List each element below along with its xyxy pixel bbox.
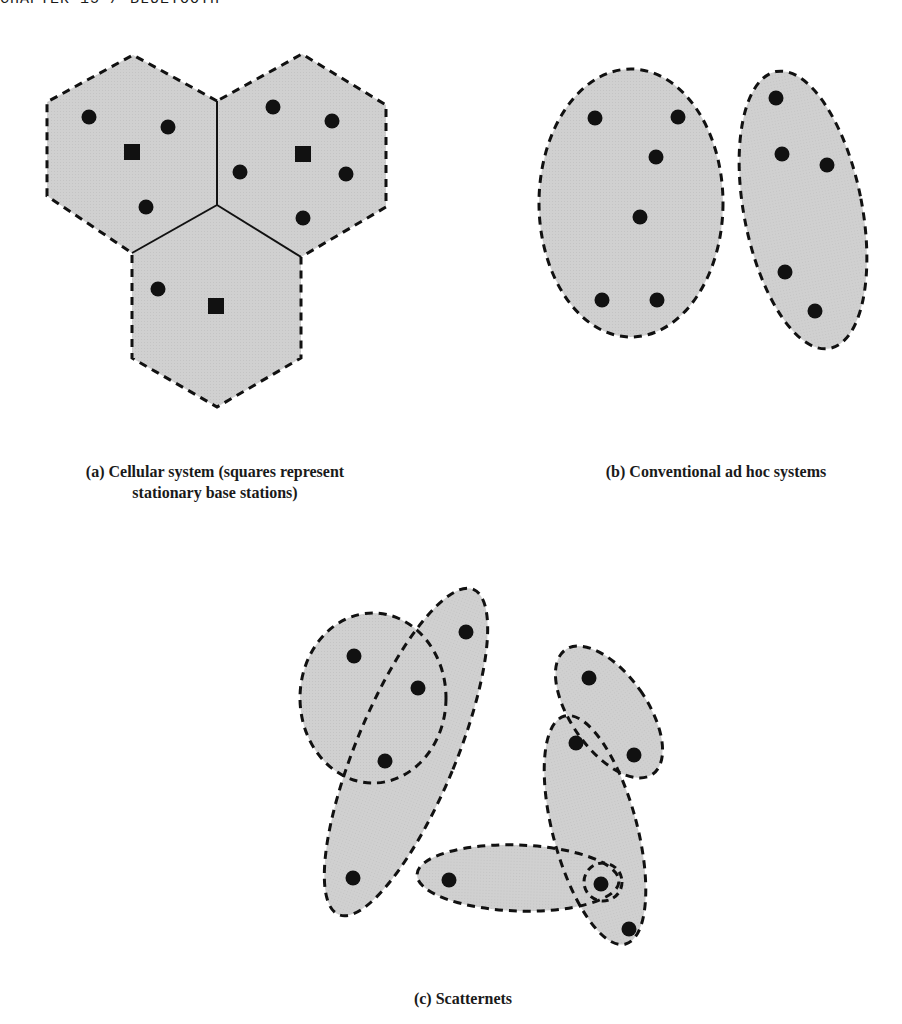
mobile-device-dot [649,150,664,165]
caption-b: (b) Conventional ad hoc systems [560,461,872,482]
mobile-device-dot [622,922,637,937]
mobile-device-dot [820,158,835,173]
mobile-device-dot [442,873,457,888]
bridge-device-dot [378,754,393,769]
network-topology-figure [0,0,902,1024]
mobile-device-dot [650,293,665,308]
bridge-device-dot [569,736,584,751]
base-station-square [124,144,140,160]
mobile-device-dot [778,265,793,280]
base-station-square [208,298,224,314]
mobile-device-dot [347,649,362,664]
mobile-device-dot [161,120,176,135]
mobile-device-dot [296,211,311,226]
panel-b-adhoc-systems [539,60,888,359]
caption-a-line1: (a) Cellular system (squares represent [38,461,392,482]
mobile-device-dot [459,625,474,640]
mobile-device-dot [339,167,354,182]
mobile-device-dot [671,110,686,125]
panel-c-scatternets [292,570,683,955]
mobile-device-dot [266,100,281,115]
base-station-square [295,146,311,162]
mobile-device-dot [325,114,340,129]
mobile-device-dot [582,671,597,686]
caption-a: (a) Cellular system (squares represent s… [38,461,392,503]
mobile-device-dot [627,748,642,763]
panel-a-cellular-system [47,54,386,407]
mobile-device-dot [775,147,790,162]
caption-b-text: (b) Conventional ad hoc systems [560,461,872,482]
mobile-device-dot [233,165,248,180]
caption-c-text: (c) Scatternets [380,988,546,1009]
mobile-device-dot [346,871,361,886]
mobile-device-dot [411,681,426,696]
mobile-device-dot [139,200,154,215]
mobile-device-dot [588,111,603,126]
bridge-device-dot [594,877,609,892]
mobile-device-dot [808,304,823,319]
mobile-device-dot [151,282,166,297]
mobile-device-dot [595,293,610,308]
caption-c: (c) Scatternets [380,988,546,1009]
caption-a-line2: stationary base stations) [38,482,392,503]
mobile-device-dot [769,91,784,106]
mobile-device-dot [633,210,648,225]
adhoc-group-left [539,69,723,337]
mobile-device-dot [82,110,97,125]
adhoc-group-right [718,60,888,359]
